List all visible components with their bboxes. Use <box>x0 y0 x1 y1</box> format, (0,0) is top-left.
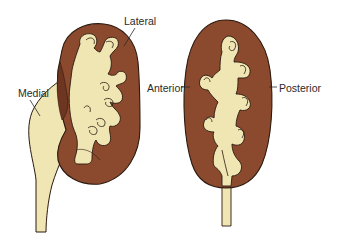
anterior-label: Anterior <box>147 83 184 94</box>
right-ureter <box>222 186 231 226</box>
right-kidney <box>184 20 272 226</box>
kidney-diagram <box>0 0 340 241</box>
medial-label: Medial <box>18 88 49 99</box>
lateral-label: Lateral <box>124 16 156 27</box>
posterior-label: Posterior <box>279 83 321 94</box>
left-kidney <box>29 24 140 232</box>
